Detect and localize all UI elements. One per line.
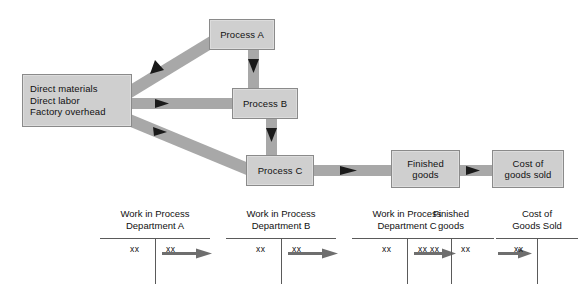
taccount-work-in-process-dept-a: Work in Process Department A xx xx bbox=[96, 208, 214, 290]
taccount-credit-value: xx bbox=[292, 244, 301, 254]
connector-process-b-to-process-c bbox=[266, 118, 277, 157]
taccount-work-in-process-dept-b: Work in Process Department B xx xx bbox=[222, 208, 340, 290]
taccount-debit-value: xx bbox=[256, 244, 265, 254]
taccount-debit-value: xx bbox=[514, 244, 523, 254]
taccount-finished-goods: Finished goods xx xx bbox=[404, 208, 498, 290]
flow-box-label: Process C bbox=[258, 165, 303, 177]
taccount-debit-value: xx bbox=[430, 244, 439, 254]
taccount-stem bbox=[537, 238, 538, 284]
connector-process-a-to-process-b bbox=[248, 49, 259, 91]
flow-box-label: Process A bbox=[220, 29, 264, 41]
taccount-title: Work in Process Department B bbox=[222, 208, 340, 232]
flow-box-finished-goods: Finished goods bbox=[391, 150, 460, 188]
connector-process-c-to-finished-goods bbox=[312, 165, 393, 176]
cost-flow-diagram: Direct materials Direct labor Factory ov… bbox=[0, 0, 582, 290]
taccount-debit-value: xx bbox=[130, 244, 139, 254]
taccount-cost-of-goods-sold: Cost of Goods Sold xx bbox=[492, 208, 582, 290]
flow-box-cost-of-goods-sold: Cost of goods sold bbox=[492, 150, 564, 188]
taccount-stem bbox=[451, 238, 452, 284]
flow-box-label: Direct materials Direct labor Factory ov… bbox=[30, 83, 106, 118]
flow-box-label: Cost of goods sold bbox=[505, 158, 552, 181]
taccount-title: Cost of Goods Sold bbox=[492, 208, 582, 232]
connector-inputs-to-process-b bbox=[128, 98, 240, 109]
flow-box-label: Finished goods bbox=[407, 158, 444, 181]
flow-box-process-a: Process A bbox=[209, 19, 275, 50]
connector-finished-goods-to-cogs bbox=[458, 165, 494, 176]
taccount-row: Work in Process Department A xx xx Work … bbox=[0, 208, 582, 290]
flow-box-label: Process B bbox=[243, 98, 287, 110]
taccount-stem bbox=[281, 238, 282, 284]
taccount-debit-value: xx bbox=[382, 244, 391, 254]
flow-box-process-b: Process B bbox=[232, 88, 298, 119]
taccount-credit-value: xx bbox=[166, 244, 175, 254]
taccount-stem bbox=[155, 238, 156, 284]
connector-inputs-to-process-c bbox=[128, 113, 256, 179]
connector-inputs-to-process-a bbox=[128, 33, 215, 100]
taccount-credit-value: xx bbox=[461, 244, 470, 254]
flow-box-direct-costs: Direct materials Direct labor Factory ov… bbox=[22, 74, 132, 127]
flow-box-process-c: Process C bbox=[246, 155, 314, 186]
taccount-title: Finished goods bbox=[404, 208, 498, 232]
taccount-title: Work in Process Department A bbox=[96, 208, 214, 232]
